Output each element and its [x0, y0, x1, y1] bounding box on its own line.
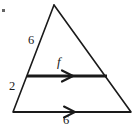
triangle-left-side: [13, 5, 54, 112]
triangle-right-side: [54, 5, 131, 112]
label-vector-f: f: [57, 55, 61, 68]
geometry-figure: 6 2 f 6: [0, 0, 138, 129]
label-upper-left-side-length: 6: [28, 34, 34, 47]
triangle-diagram-svg: [0, 0, 138, 129]
label-base-length: 6: [63, 114, 69, 127]
label-lower-left-side-length: 2: [9, 80, 15, 93]
